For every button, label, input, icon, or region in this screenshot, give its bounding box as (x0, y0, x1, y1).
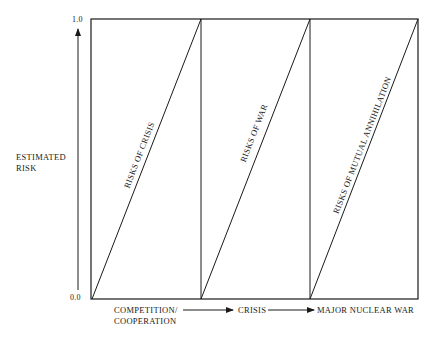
stage-crisis: CRISIS (238, 305, 266, 315)
risk-line-annihilation (310, 19, 418, 299)
y-axis-label-line2: RISK (16, 163, 37, 173)
y-tick-bottom: 0.0 (70, 293, 81, 303)
y-tick-top: 1.0 (72, 15, 83, 25)
risk-escalation-diagram (0, 0, 438, 337)
risk-line-crisis (92, 19, 201, 299)
risk-line-war (201, 19, 310, 299)
stage-competition-line2: COOPERATION (114, 316, 176, 326)
stage-major-nuclear-war: MAJOR NUCLEAR WAR (317, 305, 414, 315)
stage-competition-line1: COMPETITION/ (114, 305, 178, 315)
y-axis-label-line1: ESTIMATED (16, 152, 66, 162)
